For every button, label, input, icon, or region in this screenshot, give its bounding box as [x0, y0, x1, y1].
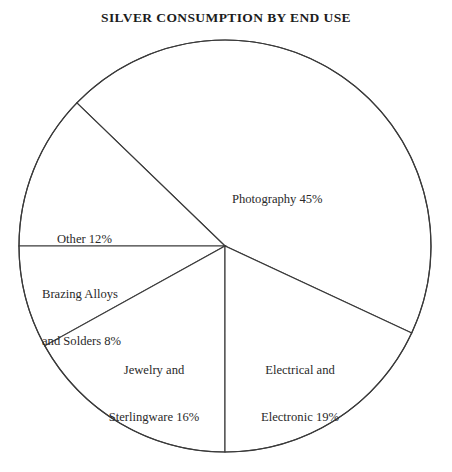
- slice-label-brazing-line1: Brazing Alloys: [42, 287, 121, 303]
- pie-chart-figure: SILVER CONSUMPTION BY END USE Photograph…: [0, 0, 452, 472]
- slice-label-jewelry-line1: Jewelry and: [88, 363, 220, 379]
- slice-label-photography-line1: Photography 45%: [232, 192, 323, 208]
- slice-label-electrical-and-electronic: Electrical and Electronic 19%: [248, 332, 352, 456]
- slice-label-photography: Photography 45%: [232, 161, 323, 239]
- slice-label-jewelry-line2: Sterlingware 16%: [88, 410, 220, 426]
- slice-label-electrical-line1: Electrical and: [248, 363, 352, 379]
- slice-label-jewelry-and-sterlingware: Jewelry and Sterlingware 16%: [88, 332, 220, 456]
- slice-label-other-line1: Other 12%: [57, 232, 112, 248]
- slice-label-electrical-line2: Electronic 19%: [248, 410, 352, 426]
